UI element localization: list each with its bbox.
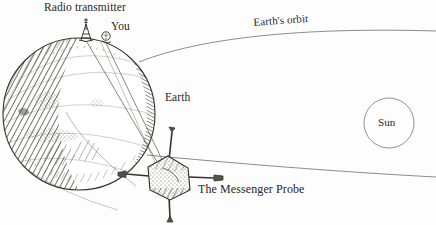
earth-orbit-upper-curve <box>139 30 436 62</box>
label-sun: Sun <box>378 116 395 128</box>
label-radio-transmitter: Radio transmitter <box>44 1 126 13</box>
diagram-canvas: Radio transmitter You Earth Earth's orbi… <box>0 0 436 225</box>
you-marker-icon <box>102 32 111 43</box>
label-messenger-probe: The Messenger Probe <box>198 182 305 197</box>
radio-transmitter-icon <box>79 18 93 42</box>
earth-orbit-lower-curve <box>147 155 436 177</box>
label-earth: Earth <box>165 91 190 103</box>
label-you: You <box>111 20 130 32</box>
